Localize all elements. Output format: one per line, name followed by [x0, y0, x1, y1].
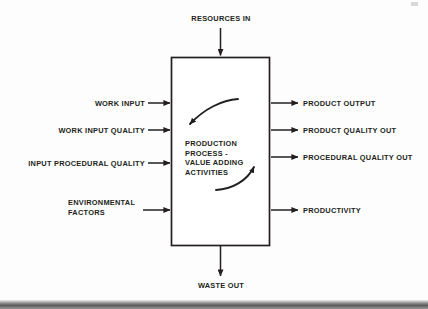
- work-input-quality-label: WORK INPUT QUALITY: [0, 126, 145, 136]
- work-input-label: WORK INPUT: [0, 99, 145, 109]
- environmental-factors-label-line2: FACTORS: [68, 208, 148, 218]
- box-label-line2: PROCESS -: [185, 149, 243, 159]
- box-label-line4: ACTIVITIES: [185, 168, 243, 178]
- procedural-quality-out-label: PROCEDURAL QUALITY OUT: [303, 153, 413, 163]
- waste-out-label: WASTE OUT: [176, 281, 266, 291]
- production-process-box-label: PRODUCTION PROCESS - VALUE ADDING ACTIVI…: [185, 139, 243, 177]
- box-label-line1: PRODUCTION: [185, 139, 243, 149]
- environmental-factors-label: ENVIRONMENTAL FACTORS: [68, 198, 148, 217]
- scan-speck-top-right: [411, 2, 418, 6]
- box-label-line3: VALUE ADDING: [185, 158, 243, 168]
- environmental-factors-label-line1: ENVIRONMENTAL: [68, 198, 148, 208]
- productivity-label: PRODUCTIVITY: [303, 206, 361, 216]
- input-procedural-quality-label: INPUT PROCEDURAL QUALITY: [0, 159, 145, 169]
- resources-in-label: RESOURCES IN: [176, 14, 266, 24]
- scan-edge-band: [0, 300, 428, 309]
- product-output-label: PRODUCT OUTPUT: [303, 99, 375, 109]
- product-quality-out-label: PRODUCT QUALITY OUT: [303, 126, 396, 136]
- diagram-canvas: RESOURCES IN WORK INPUT WORK INPUT QUALI…: [0, 0, 428, 309]
